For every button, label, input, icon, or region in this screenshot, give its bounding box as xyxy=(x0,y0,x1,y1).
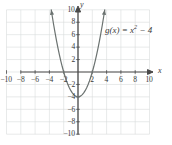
y-tick-label: −8 xyxy=(68,118,76,126)
x-tick-label: 10 xyxy=(146,76,153,84)
x-tick-label: −4 xyxy=(45,76,53,84)
y-tick-label: 8 xyxy=(72,18,76,26)
y-tick-label: 4 xyxy=(72,43,76,51)
x-tick-label: −10 xyxy=(1,76,12,84)
y-tick-label: 6 xyxy=(72,31,76,39)
x-tick-label: −2 xyxy=(60,76,68,84)
parabola-right-arrowhead xyxy=(102,10,106,15)
x-tick-label: 4 xyxy=(105,76,109,84)
x-tick-label: 6 xyxy=(119,76,123,84)
y-tick-label: −6 xyxy=(68,106,76,114)
graph-figure: −10−8−6−4−2246810108642−2−4−6−8−10 x y g… xyxy=(0,0,172,145)
x-tick-label: −8 xyxy=(17,76,25,84)
function-label-prefix: g(x) = x xyxy=(105,25,134,35)
y-tick-label: 10 xyxy=(68,6,75,14)
function-equation-label: g(x) = x2 − 4 xyxy=(105,26,152,35)
x-tick-label: 2 xyxy=(90,76,94,84)
x-axis-label: x xyxy=(158,67,162,75)
y-tick-label: −2 xyxy=(68,81,76,89)
y-tick-label: −10 xyxy=(64,130,75,138)
y-axis-label: y xyxy=(80,1,84,9)
x-tick-label: −6 xyxy=(31,76,39,84)
function-label-suffix: − 4 xyxy=(137,25,152,35)
y-tick-label: 2 xyxy=(72,56,76,64)
y-tick-label: −4 xyxy=(68,93,76,101)
parabola-left-arrowhead xyxy=(50,10,54,15)
x-tick-label: 8 xyxy=(133,76,137,84)
coordinate-plane xyxy=(0,0,172,145)
x-axis-arrowhead xyxy=(148,70,154,75)
